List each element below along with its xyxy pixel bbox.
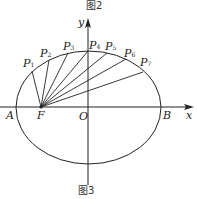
origin-label: O [79, 111, 88, 122]
point-p5-label: P5 [105, 41, 116, 52]
y-axis-label: y [78, 17, 84, 28]
point-p3-label: P3 [63, 41, 74, 52]
caption-top: 图2 [86, 1, 102, 11]
point-b-label: B [163, 110, 171, 121]
point-f-label: F [37, 110, 45, 121]
point-a-label: A [6, 110, 14, 121]
caption-bottom: 图3 [78, 186, 94, 196]
point-p6-label: P6 [124, 48, 135, 59]
point-p7-label: P7 [140, 57, 151, 68]
point-p2-label: P2 [40, 48, 51, 59]
point-p4-label: P4 [89, 40, 100, 51]
ellipse-diagram: 图2 图3 y x O A F B P1 P2 P3 P4 P5 P6 P7 [0, 0, 197, 199]
point-p1-label: P1 [23, 58, 34, 69]
x-axis-label: x [186, 110, 192, 121]
diagram-graphics [0, 0, 197, 199]
